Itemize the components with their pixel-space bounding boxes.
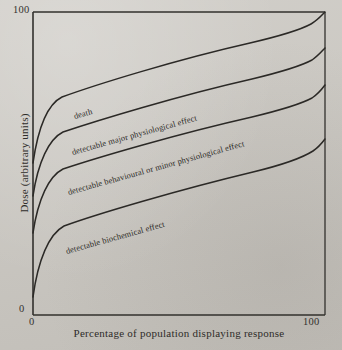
x-axis-tick-100: 100 (303, 316, 319, 327)
y-axis-title: Dose (arbitrary units) (18, 83, 30, 243)
x-axis-tick-0: 0 (29, 316, 34, 327)
curve-death (33, 12, 325, 163)
plot-area (0, 0, 342, 350)
x-axis-title: Percentage of population displaying resp… (33, 327, 325, 339)
dose-response-figure: 100 0 0 100 Percentage of population dis… (0, 0, 342, 350)
y-axis-tick-0: 0 (19, 303, 24, 314)
y-axis-tick-100: 100 (13, 4, 29, 15)
